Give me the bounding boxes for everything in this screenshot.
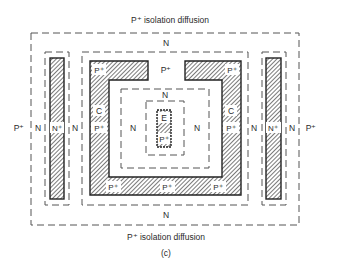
collector-right-c-label: C bbox=[228, 106, 234, 116]
base-n-top-label: N bbox=[162, 90, 168, 100]
base-n-right-label: N bbox=[194, 123, 200, 133]
collector-top-left-label: P⁺ bbox=[94, 66, 103, 75]
bottom-isolation-label: P⁺ isolation diffusion bbox=[127, 232, 205, 242]
left-outside-label: P⁺ bbox=[14, 123, 25, 133]
collector-bottom-mid-label: P⁺ bbox=[162, 183, 171, 192]
left-nplus-label: N⁺ bbox=[52, 124, 62, 133]
emitter-p-label: P⁺ bbox=[159, 135, 168, 144]
collector-bottom-left-label: P⁺ bbox=[108, 183, 117, 192]
right-nplus-label: N⁺ bbox=[268, 124, 278, 133]
collector-left-c-label: C bbox=[96, 106, 102, 116]
emitter-e-label: E bbox=[161, 113, 167, 123]
left-n-outer-label: N bbox=[35, 123, 41, 133]
base-n-left-label: N bbox=[130, 123, 136, 133]
collector-top-gap-label: P⁺ bbox=[161, 65, 172, 75]
collector-right-p-label: P⁺ bbox=[226, 124, 235, 133]
outer-n-label: N bbox=[163, 38, 169, 48]
outer-n-bottom-label: N bbox=[163, 210, 169, 220]
figure-caption: (c) bbox=[161, 248, 171, 258]
right-n-inner-label: N bbox=[251, 123, 257, 133]
right-outside-label: P⁺ bbox=[306, 123, 317, 133]
left-n-inner-label: N bbox=[72, 123, 78, 133]
right-n-outer-label: N bbox=[289, 123, 295, 133]
top-isolation-label: P⁺ isolation diffusion bbox=[131, 15, 209, 25]
transistor-layout-diagram: P⁺ isolation diffusion N N P⁺ N N⁺ N N N… bbox=[0, 0, 341, 272]
collector-bottom-right-label: P⁺ bbox=[213, 183, 222, 192]
collector-top-right-label: P⁺ bbox=[227, 66, 236, 75]
collector-left-p-label: P⁺ bbox=[94, 124, 103, 133]
